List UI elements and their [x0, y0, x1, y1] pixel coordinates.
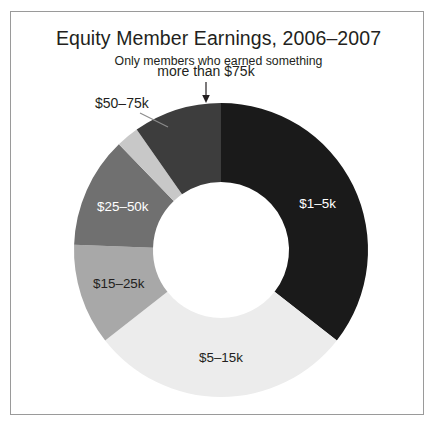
slice-label: $50–75k: [95, 95, 150, 111]
slice-label: $1–5k: [299, 196, 336, 211]
arrow-head-more-than-75k: [202, 95, 210, 103]
slice-label: $5–15k: [199, 350, 243, 365]
chart-figure: Equity Member Earnings, 2006–2007 Only m…: [0, 0, 437, 429]
slice-label: more than $75k: [157, 63, 255, 79]
slice-label: $15–25k: [93, 276, 145, 291]
donut-chart: $1–5k$5–15k$15–25k$25–50k$50–75kmore tha…: [0, 0, 437, 429]
slice-label: $25–50k: [97, 199, 149, 214]
donut-slice[interactable]: [221, 103, 368, 341]
